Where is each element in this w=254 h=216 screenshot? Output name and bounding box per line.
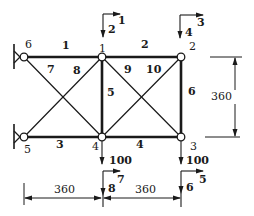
member-label-7: 7	[47, 64, 55, 75]
member-label-5: 5	[107, 87, 115, 98]
dof-label-5: 5	[199, 174, 207, 185]
support-pin-5	[14, 131, 20, 143]
member-label-8: 8	[73, 65, 81, 76]
support-pin-6	[14, 51, 20, 63]
node-label-4: 4	[92, 141, 99, 152]
node-label-5: 5	[24, 144, 31, 155]
dof-label-6: 6	[186, 182, 194, 193]
joint-6	[20, 53, 28, 61]
node-label-1: 1	[99, 43, 106, 54]
truss-diagram: 6 1 2 5 4 3 1 2 3 4 5 6 7 8 9 10 1 2 3 4…	[0, 0, 254, 216]
dim-label-bay-right: 360	[135, 184, 156, 195]
member-label-1: 1	[62, 40, 70, 51]
dof-label-7: 7	[117, 174, 125, 185]
dof-label-1: 1	[118, 15, 126, 26]
member-label-6: 6	[188, 86, 196, 97]
dim-label-height: 360	[211, 91, 232, 102]
member-label-4: 4	[136, 139, 144, 150]
joint-3	[177, 133, 185, 141]
member-label-10: 10	[146, 64, 161, 75]
node-label-3: 3	[190, 141, 197, 152]
member-label-3: 3	[56, 139, 64, 150]
joint-5	[20, 133, 28, 141]
member-label-2: 2	[141, 39, 149, 50]
joint-2	[177, 53, 185, 61]
load-label-node-3: 100	[186, 155, 209, 166]
truss-drawing	[0, 0, 254, 216]
dof-label-4: 4	[185, 27, 193, 38]
dof-label-3: 3	[197, 17, 205, 28]
member-label-9: 9	[124, 64, 132, 75]
load-label-node-4: 100	[109, 155, 132, 166]
node-label-2: 2	[189, 41, 196, 52]
dof-label-2: 2	[108, 24, 116, 35]
node-label-6: 6	[25, 39, 32, 50]
dim-label-bay-left: 360	[54, 184, 75, 195]
dof-label-8: 8	[108, 183, 116, 194]
joint-4	[98, 133, 106, 141]
